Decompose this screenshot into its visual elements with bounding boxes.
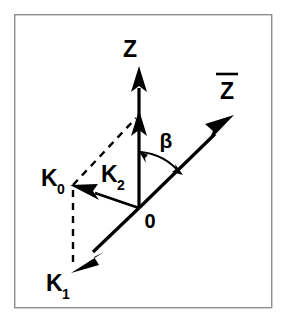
label-k0-base: K: [41, 165, 58, 191]
label-k0-subscript: 0: [57, 181, 65, 197]
label-origin: 0: [144, 210, 155, 232]
figure-frame: [15, 15, 272, 308]
label-beta: β: [160, 129, 173, 152]
label-zbar-axis: Z: [220, 78, 234, 104]
label-k1-subscript: 1: [62, 286, 70, 302]
label-k2-subscript: 2: [117, 177, 125, 193]
vector-diagram: Z Z β 0 K 0 K 1 K 2: [0, 0, 287, 328]
label-k2-base: K: [101, 161, 118, 187]
figure-root: Z Z β 0 K 0 K 1 K 2: [0, 0, 287, 328]
label-z-axis: Z: [123, 36, 137, 62]
label-k1-base: K: [46, 270, 63, 296]
